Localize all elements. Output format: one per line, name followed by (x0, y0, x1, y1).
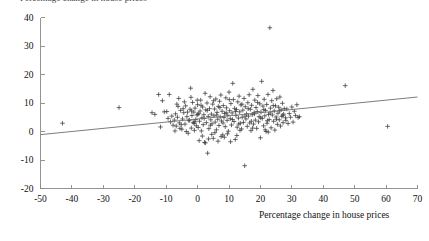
x-tick-label: 30 (287, 194, 297, 204)
scatter-point (229, 101, 234, 106)
scatter-point (210, 102, 215, 107)
scatter-point (196, 112, 201, 117)
scatter-point (269, 125, 274, 130)
scatter-point (173, 129, 178, 134)
scatter-point (251, 87, 256, 92)
x-axis-title: Percentage change in house prices (259, 210, 390, 220)
scatter-point (266, 92, 271, 97)
scatter-point (189, 126, 194, 131)
scatter-point (241, 120, 246, 125)
chart-canvas: -50-40-30-20-10010203040506070 -20-10010… (0, 0, 429, 241)
scatter-point (242, 163, 247, 168)
scatter-point (262, 97, 267, 102)
y-tick-label: 20 (24, 70, 34, 80)
y-tick-label: 30 (24, 41, 34, 51)
scatter-point (181, 110, 186, 115)
scatter-point (290, 105, 295, 110)
scatter-point (246, 106, 251, 111)
scatter-point (249, 103, 254, 108)
scatter-point (281, 120, 286, 125)
scatter-point (277, 118, 282, 123)
scatter-point (223, 124, 228, 129)
scatter-point (208, 94, 213, 99)
x-tick-label: -10 (160, 194, 173, 204)
scatter-point (197, 138, 202, 143)
y-tick-label: 40 (24, 13, 34, 23)
scatter-point (286, 121, 291, 126)
scatter-point (385, 124, 390, 129)
x-tick-label: 50 (350, 194, 360, 204)
scatter-point (233, 137, 238, 142)
y-tick-label: 10 (24, 98, 34, 108)
scatter-point (235, 133, 240, 138)
scatter-point (206, 137, 211, 142)
scatter-markers (60, 25, 390, 168)
scatter-point (217, 123, 222, 128)
scatter-point (188, 86, 193, 91)
x-tick-label: 0 (195, 194, 200, 204)
y-axis-ticks (41, 18, 45, 189)
scatter-point (182, 100, 187, 105)
scatter-point (220, 109, 225, 114)
scatter-point (189, 95, 194, 100)
x-tick-label: -40 (66, 194, 79, 204)
x-tick-label: -20 (128, 194, 141, 204)
scatter-point (160, 98, 165, 103)
scatter-point (203, 141, 208, 146)
scatter-point (204, 120, 209, 125)
scatter-point (205, 151, 210, 156)
scatter-point (227, 108, 232, 113)
scatter-point (280, 113, 285, 118)
scatter-point (246, 100, 251, 105)
scatter-point (183, 122, 188, 127)
scatter-point (261, 124, 266, 129)
scatter-point (268, 25, 273, 30)
scatter-point (195, 102, 200, 107)
scatter-point (171, 123, 176, 128)
scatter-point (271, 103, 276, 108)
scatter-point (237, 94, 242, 99)
scatter-point (201, 122, 206, 127)
scatter-point (217, 99, 222, 104)
scatter-point (166, 116, 171, 121)
scatter-point (280, 101, 285, 106)
scatter-point (176, 96, 181, 101)
scatter-point (270, 113, 275, 118)
scatter-point (248, 107, 253, 112)
scatter-point (235, 100, 240, 105)
scatter-point (252, 98, 257, 103)
y-tick-label: 0 (29, 127, 34, 137)
scatter-point (60, 121, 65, 126)
scatter-point (156, 92, 161, 97)
scatter-point (269, 98, 274, 103)
y-axis-tick-labels: -20-10010203040 (21, 13, 34, 194)
scatter-point (265, 121, 270, 126)
x-axis-ticks (41, 185, 418, 189)
scatter-point (268, 106, 273, 111)
scatter-point (199, 129, 204, 134)
scatter-point (167, 92, 172, 97)
scatter-point (245, 124, 250, 129)
scatter-point (190, 100, 195, 105)
scatter-point (284, 118, 289, 123)
scatter-point (192, 128, 197, 133)
scatter-point (211, 136, 216, 141)
scatter-point (164, 109, 169, 114)
scatter-point (236, 116, 241, 121)
scatter-point (247, 92, 252, 97)
scatter-point (271, 88, 276, 93)
scatter-point (193, 106, 198, 111)
scatter-point (273, 128, 278, 133)
scatter-point (258, 135, 263, 140)
x-axis-tick-labels: -50-40-30-20-10010203040506070 (34, 194, 422, 204)
scatter-point (158, 125, 163, 130)
scatter-point (271, 119, 276, 124)
scatter-point (205, 101, 210, 106)
scatter-point (243, 104, 248, 109)
scatter-point (229, 123, 234, 128)
scatter-point (200, 134, 205, 139)
scatter-point (256, 93, 261, 98)
scatter-point (230, 81, 235, 86)
scatter-point (239, 103, 244, 108)
scatter-point (227, 90, 232, 95)
